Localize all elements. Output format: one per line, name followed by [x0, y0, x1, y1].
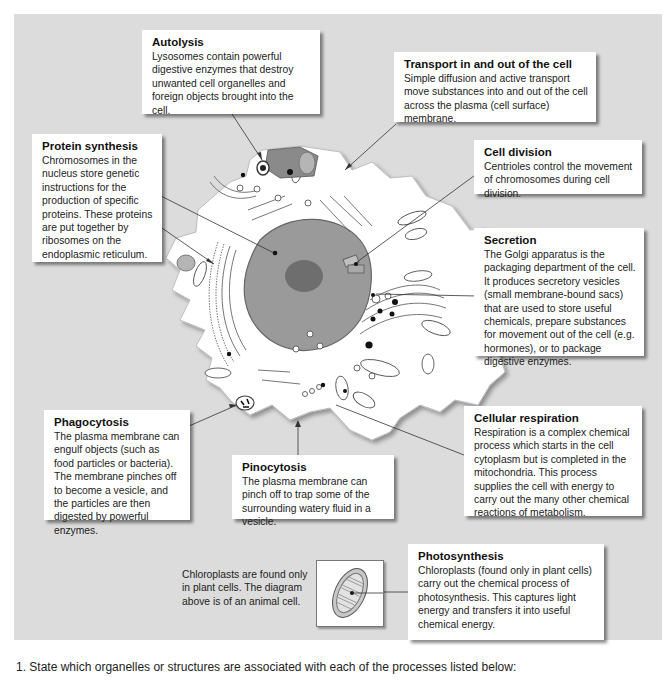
callout-cell-division: Cell division Centrioles control the mov…: [474, 140, 642, 194]
callout-text: The plasma membrane can pinch off to tra…: [242, 475, 386, 529]
callout-text: The plasma membrane can engulf objects (…: [54, 430, 182, 537]
question-1: 1. State which organelles or structures …: [16, 660, 516, 674]
callout-text: Chloroplasts (found only in plant cells)…: [418, 564, 596, 631]
lysosome: [257, 161, 269, 175]
callout-title: Cellular respiration: [474, 412, 634, 424]
callout-title: Pinocytosis: [242, 461, 386, 473]
callout-phagocytosis: Phagocytosis The plasma membrane can eng…: [44, 410, 190, 520]
callout-cellular-respiration: Cellular respiration Respiration is a co…: [464, 406, 642, 516]
callout-title: Autolysis: [152, 36, 312, 48]
callout-pinocytosis: Pinocytosis The plasma membrane can pinc…: [232, 455, 394, 519]
callout-text: The Golgi apparatus is the packaging dep…: [484, 248, 636, 369]
callout-title: Photosynthesis: [418, 550, 596, 562]
callout-secretion: Secretion The Golgi apparatus is the pac…: [474, 228, 644, 356]
callout-title: Transport in and out of the cell: [404, 58, 588, 70]
callout-text: Lysosomes contain powerful digestive enz…: [152, 50, 312, 117]
callout-title: Secretion: [484, 234, 636, 246]
callout-protein-synthesis: Protein synthesis Chromosomes in the nuc…: [32, 134, 162, 262]
callout-text: Simple diffusion and active transport mo…: [404, 72, 588, 126]
chloroplast-note: Chloroplasts are found only in plant cel…: [182, 568, 314, 608]
callout-text: Chromosomes in the nucleus store genetic…: [42, 154, 154, 261]
callout-title: Cell division: [484, 146, 634, 158]
callout-autolysis: Autolysis Lysosomes contain powerful dig…: [142, 30, 320, 114]
callout-text: Centrioles control the movement of chrom…: [484, 160, 634, 200]
nucleolus: [285, 260, 323, 292]
callout-title: Protein synthesis: [42, 140, 154, 152]
chloroplast-illustration: [316, 560, 384, 627]
callout-title: Phagocytosis: [54, 416, 182, 428]
phagocytic-vesicle: [236, 396, 254, 410]
callout-transport: Transport in and out of the cell Simple …: [394, 52, 596, 122]
callout-text: Respiration is a complex chemical proces…: [474, 426, 634, 520]
chloroplast-icon: [317, 561, 383, 626]
callout-photosynthesis: Photosynthesis Chloroplasts (found only …: [408, 544, 604, 640]
